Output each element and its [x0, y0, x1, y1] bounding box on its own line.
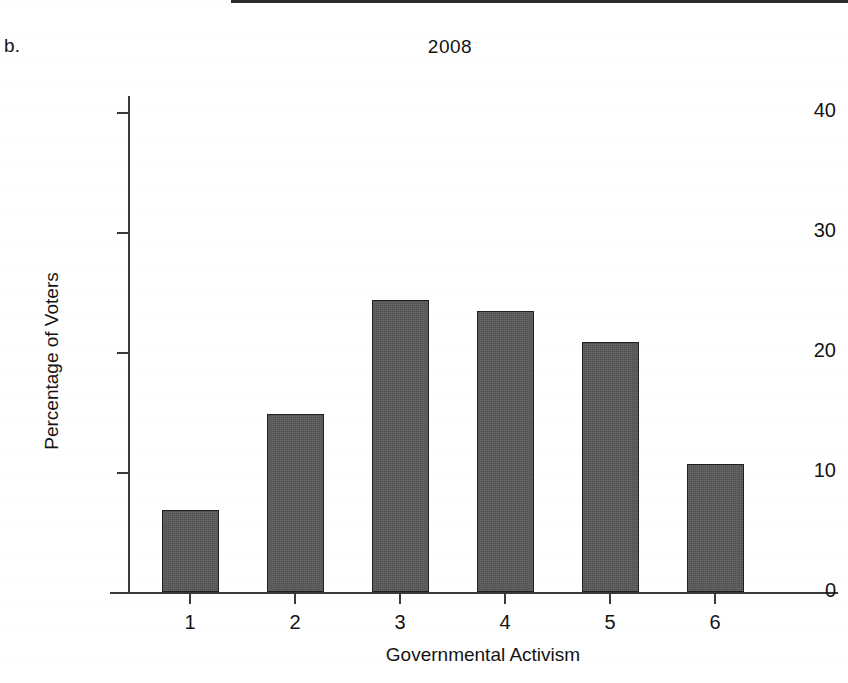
y-axis-title: Percentage of Voters: [41, 191, 63, 531]
x-tick-label: 1: [160, 611, 220, 634]
x-tick-mark: [399, 593, 401, 604]
x-tick-mark: [714, 593, 716, 604]
y-tick-label: 30: [740, 219, 848, 242]
y-tick-label: 10: [740, 459, 848, 482]
x-tick-label: 3: [370, 611, 430, 634]
x-tick-mark: [609, 593, 611, 604]
bar: [267, 414, 324, 592]
y-tick-mark: [117, 472, 129, 474]
x-tick-label: 6: [685, 611, 745, 634]
x-tick-label: 2: [265, 611, 325, 634]
plot-area: 010203040 123456 Percentage of Voters Go…: [0, 0, 848, 683]
x-axis-title: Governmental Activism: [128, 644, 838, 666]
bar: [687, 464, 744, 592]
y-tick-label: 40: [740, 99, 848, 122]
x-tick-mark: [189, 593, 191, 604]
y-tick-mark: [117, 112, 129, 114]
bar: [582, 342, 639, 592]
y-axis-line: [128, 96, 130, 593]
figure-panel: b. 2008 010203040 123456 Percentage of V…: [0, 0, 848, 683]
y-tick-label: 20: [740, 339, 848, 362]
bar: [477, 311, 534, 592]
bar: [372, 300, 429, 592]
y-tick-label: 0: [740, 579, 848, 602]
x-axis-line: [110, 592, 838, 594]
y-tick-mark: [117, 232, 129, 234]
bar: [162, 510, 219, 592]
y-tick-mark: [117, 352, 129, 354]
y-tick-mark: [117, 592, 129, 594]
x-tick-mark: [294, 593, 296, 604]
x-tick-label: 5: [580, 611, 640, 634]
x-tick-mark: [504, 593, 506, 604]
x-tick-label: 4: [475, 611, 535, 634]
